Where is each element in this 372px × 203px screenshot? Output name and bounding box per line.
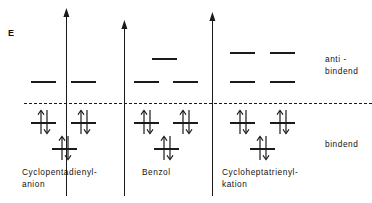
electron-pair-arrows-icon: [159, 135, 175, 161]
electron-pair-arrows-icon: [36, 109, 52, 135]
axis-caption: E: [8, 28, 14, 38]
axis-arrow-icon: [63, 8, 69, 17]
orbital-level: [71, 81, 96, 83]
species-label-cycloheptatrienyl-kation: Cycloheptatrienyl- kation: [222, 166, 298, 190]
electron-pair-arrows-icon: [275, 109, 291, 135]
species-label-cyclopentadienyl-anion: Cyclopentadienyl- anion: [22, 166, 97, 190]
orbital-level: [173, 81, 198, 83]
electron-pair-arrows-icon: [255, 135, 271, 161]
orbital-level: [134, 81, 159, 83]
energy-axis-benzol: [124, 28, 125, 196]
electron-pair-arrows-icon: [139, 109, 155, 135]
species-label-benzol: Benzol: [142, 166, 171, 178]
region-label-bonding: bindend: [325, 138, 358, 150]
axis-arrow-icon: [121, 20, 127, 29]
electron-pair-arrows-icon: [235, 109, 251, 135]
electron-pair-arrows-icon: [57, 135, 73, 161]
orbital-level: [230, 81, 255, 83]
energy-axis-cycloheptatrienyl-kation: [212, 20, 213, 196]
orbital-level: [270, 81, 295, 83]
nonbonding-level-line: [24, 103, 372, 104]
orbital-level: [152, 58, 177, 60]
orbital-level: [230, 52, 255, 54]
mo-energy-diagram: E Cyclopentadienyl- anion Benzol Cyclohe…: [0, 0, 372, 203]
axis-arrow-icon: [209, 12, 215, 21]
electron-pair-arrows-icon: [178, 109, 194, 135]
orbital-level: [31, 81, 56, 83]
orbital-level: [270, 52, 295, 54]
electron-pair-arrows-icon: [76, 109, 92, 135]
region-label-antibonding: anti - bindend: [325, 53, 358, 77]
